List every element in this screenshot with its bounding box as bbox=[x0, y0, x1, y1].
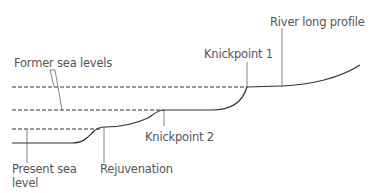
label-knickpoint-2: Knickpoint 2 bbox=[145, 130, 214, 144]
former-sea-levels-leader-b bbox=[55, 70, 62, 110]
label-rejuvenation: Rejuvenation bbox=[100, 162, 173, 176]
label-former-sea-levels: Former sea levels bbox=[14, 56, 112, 70]
label-river-long-profile: River long profile bbox=[270, 15, 365, 29]
label-present-sea-level: Present sea level bbox=[12, 162, 77, 190]
label-present-sea-level-line2: level bbox=[12, 176, 77, 190]
former-sea-levels-leader-a bbox=[50, 70, 54, 87]
label-present-sea-level-line1: Present sea bbox=[12, 162, 77, 176]
label-knickpoint-1: Knickpoint 1 bbox=[204, 47, 273, 61]
